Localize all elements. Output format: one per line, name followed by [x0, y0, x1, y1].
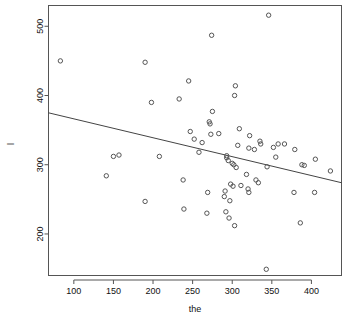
x-tick-label: 150 [106, 286, 121, 296]
y-tick-label: 400 [35, 88, 45, 103]
y-axis-label: l [6, 143, 16, 145]
y-tick-label: 500 [35, 19, 45, 34]
scatter-plot-figure: 200300400500 100150200250300350400 the l [0, 0, 352, 328]
y-tick-label: 200 [35, 226, 45, 241]
x-tick-label: 100 [66, 286, 81, 296]
figure-background [0, 0, 352, 328]
x-tick-label: 200 [146, 286, 161, 296]
x-tick-label: 350 [264, 286, 279, 296]
y-tick-label: 300 [35, 157, 45, 172]
x-tick-label: 400 [304, 286, 319, 296]
x-tick-label: 300 [225, 286, 240, 296]
x-axis-label: the [189, 304, 202, 314]
chart-canvas: 200300400500 100150200250300350400 the l [0, 0, 352, 328]
x-tick-label: 250 [185, 286, 200, 296]
